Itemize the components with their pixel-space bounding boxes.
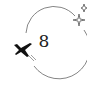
day-number: 8: [39, 33, 50, 50]
sparkle-icon: [73, 4, 87, 26]
motion-lines: [29, 55, 36, 61]
airplane-icon: [14, 43, 32, 57]
